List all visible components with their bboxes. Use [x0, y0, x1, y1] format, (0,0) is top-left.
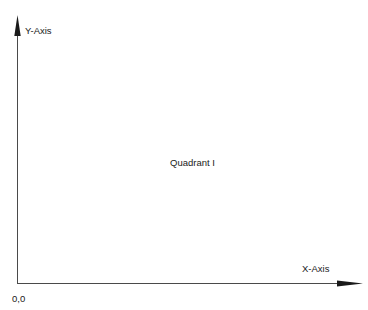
quadrant-diagram: Y-Axis X-Axis Quadrant I 0,0 [0, 0, 368, 310]
x-axis-arrow-icon [337, 280, 363, 286]
x-axis-label: X-Axis [302, 264, 329, 274]
origin-label: 0,0 [12, 294, 25, 304]
quadrant-one-label: Quadrant I [170, 158, 215, 168]
y-axis-arrow-icon [14, 15, 20, 36]
y-axis-label: Y-Axis [25, 26, 52, 36]
